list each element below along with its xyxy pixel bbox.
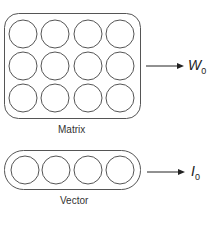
matrix-cell: [106, 84, 134, 112]
matrix-cell: [74, 52, 102, 80]
vector-label: Vector: [60, 195, 88, 206]
matrix-cell: [41, 20, 69, 48]
matrix-cell: [106, 52, 134, 80]
matrix-cell: [74, 20, 102, 48]
matrix-container: [5, 14, 141, 119]
vector-output-symbol: I0: [191, 163, 200, 182]
vector-cell: [11, 156, 39, 184]
vector-output-subscript: 0: [195, 172, 200, 182]
matrix-label: Matrix: [58, 124, 85, 135]
matrix-cell: [41, 84, 69, 112]
matrix-output-letter: W: [188, 57, 201, 73]
vector-cell: [74, 156, 102, 184]
matrix-cell: [9, 20, 37, 48]
matrix-cell: [106, 20, 134, 48]
matrix-output-subscript: 0: [201, 66, 206, 76]
matrix-output-symbol: W0: [188, 57, 206, 76]
vector-cell: [42, 156, 70, 184]
matrix-cell: [9, 52, 37, 80]
matrix-arrow: [146, 63, 184, 69]
vector-cell: [106, 156, 134, 184]
vector-arrow: [147, 169, 185, 175]
matrix-cell: [9, 84, 37, 112]
matrix-cell: [74, 84, 102, 112]
vector-group: [5, 151, 141, 190]
matrix-cell: [41, 52, 69, 80]
matrix-group: [5, 14, 141, 119]
diagram-canvas: [0, 0, 209, 246]
